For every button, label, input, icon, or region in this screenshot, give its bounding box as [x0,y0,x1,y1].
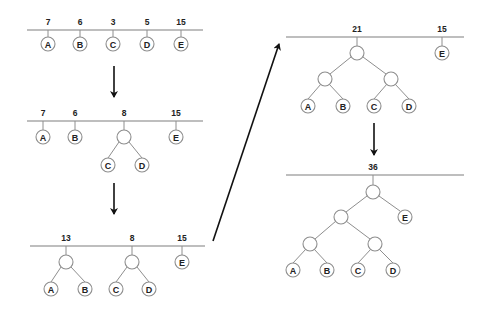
weight-e: 15 [177,233,187,243]
weight-d: 5 [145,17,150,27]
weight-a: 7 [41,108,46,118]
stage-4: 21 15 A B C D E [286,24,464,113]
internal-node-abcd [350,46,364,60]
stage-3: 13 8 15 A B C D E [30,233,205,296]
svg-text:E: E [439,49,445,59]
leaf-node-e: E [398,210,412,224]
weight-e: 15 [437,24,447,34]
svg-text:C: C [110,40,117,50]
leaf-node-b: B [78,282,92,296]
leaf-node-e: E [435,46,449,60]
leaf-node-a: A [301,99,315,113]
internal-node-root [366,185,380,199]
internal-node-cd [384,72,398,86]
leaf-node-b: B [320,263,334,277]
leaf-node-e: E [169,130,183,144]
internal-node-ab [318,72,332,86]
internal-node-cd [125,255,139,269]
leaf-node-d: D [386,263,400,277]
weight-e: 15 [171,108,181,118]
svg-text:C: C [105,161,112,171]
svg-text:C: C [113,285,120,295]
leaf-node-a: A [41,37,55,51]
weight-root: 36 [368,162,378,172]
internal-node-abcd [334,210,348,224]
leaf-node-b: B [73,37,87,51]
internal-node-cd [117,130,131,144]
weight-abcd: 21 [352,24,362,34]
leaf-node-a: A [36,130,50,144]
internal-node-ab [303,237,317,251]
svg-text:D: D [390,266,397,276]
leaf-node-d: D [142,282,156,296]
leaf-node-c: C [351,263,365,277]
huffman-diagram: 7 6 3 5 15 A B C D E 7 6 8 15 A B C D E [0,0,488,316]
leaf-node-d: D [140,37,154,51]
leaf-node-a: A [286,263,300,277]
svg-text:B: B [72,133,79,143]
weight-cd: 8 [122,108,127,118]
leaf-node-e: E [174,37,188,51]
leaf-node-c: C [106,37,120,51]
svg-text:D: D [146,285,153,295]
svg-text:C: C [371,102,378,112]
internal-node-cd [368,237,382,251]
weight-ab: 13 [61,233,71,243]
svg-text:B: B [77,40,84,50]
leaf-node-b: B [68,130,82,144]
leaf-node-d: D [135,158,149,172]
svg-text:D: D [406,102,413,112]
svg-text:C: C [355,266,362,276]
svg-text:B: B [82,285,89,295]
arrow-up-diagonal [213,44,279,241]
leaf-node-a: A [44,282,58,296]
leaf-node-c: C [101,158,115,172]
svg-text:A: A [290,266,297,276]
svg-text:A: A [45,40,52,50]
leaf-node-c: C [367,99,381,113]
leaf-node-b: B [336,99,350,113]
svg-text:E: E [179,258,185,268]
stage-1: 7 6 3 5 15 A B C D E [27,17,203,51]
svg-text:D: D [139,161,146,171]
svg-text:E: E [402,213,408,223]
internal-node-ab [59,255,73,269]
leaf-node-e: E [175,255,189,269]
svg-text:D: D [144,40,151,50]
svg-text:E: E [173,133,179,143]
weight-cd: 8 [130,233,135,243]
svg-text:A: A [48,285,55,295]
weight-e: 15 [176,17,186,27]
weight-b: 6 [78,17,83,27]
svg-text:B: B [324,266,331,276]
svg-text:A: A [40,133,47,143]
weight-c: 3 [111,17,116,27]
leaf-node-d: D [402,99,416,113]
svg-text:E: E [178,40,184,50]
leaf-node-c: C [109,282,123,296]
weight-a: 7 [46,17,51,27]
svg-text:A: A [305,102,312,112]
svg-text:B: B [340,102,347,112]
stage-2: 7 6 8 15 A B C D E [27,108,203,172]
stage-5: 36 E A B C D [286,162,464,277]
weight-b: 6 [73,108,78,118]
